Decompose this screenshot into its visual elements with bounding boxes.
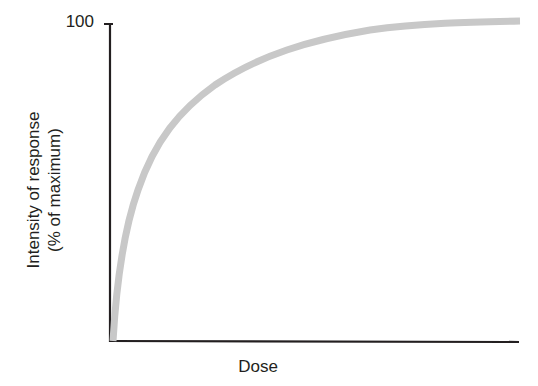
dose-response-curve [113,21,520,341]
y-axis-label-line-1: Intensity of response [23,112,44,269]
y-axis-label-line-2: (% of maximum) [44,112,65,269]
y-tick-label-100: 100 [66,12,94,32]
x-axis-label: Dose [0,357,538,377]
y-axis-label: Intensity of response (% of maximum) [4,40,84,340]
x-axis [109,341,519,342]
x-axis-label-text: Dose [238,357,278,377]
